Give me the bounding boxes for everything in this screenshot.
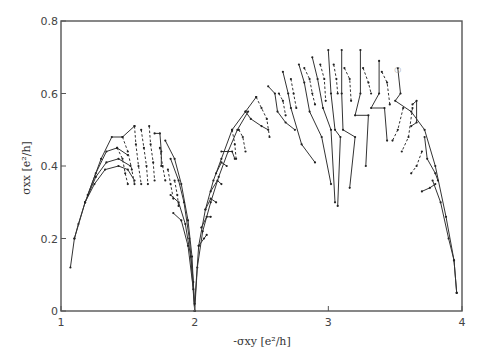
- data-point: [391, 140, 393, 142]
- data-point: [311, 56, 313, 58]
- y-axis: 00.20.40.60.8: [41, 15, 67, 318]
- data-point: [401, 150, 403, 152]
- data-point: [220, 161, 222, 163]
- data-point: [323, 78, 325, 80]
- data-point: [100, 158, 102, 160]
- data-point: [424, 129, 426, 131]
- data-point: [148, 125, 150, 127]
- data-point: [167, 169, 169, 171]
- data-point: [337, 92, 339, 94]
- data-point: [426, 158, 428, 160]
- data-point: [69, 266, 71, 268]
- data-point: [339, 136, 341, 138]
- data-point: [105, 161, 107, 163]
- x-tick-label: 1: [58, 316, 65, 329]
- data-point: [268, 136, 270, 138]
- data-point: [333, 63, 335, 65]
- data-point: [160, 150, 162, 152]
- series-right-flow-12: [279, 94, 286, 116]
- data-point: [440, 201, 442, 203]
- data-point: [266, 118, 268, 120]
- data-point: [334, 201, 336, 203]
- data-point: [170, 183, 172, 185]
- data-point: [290, 78, 292, 80]
- series-left-right-arc-a: [165, 141, 194, 311]
- data-point: [117, 158, 119, 160]
- data-point: [143, 147, 145, 149]
- data-point: [285, 121, 287, 123]
- data-point: [127, 169, 129, 171]
- data-point: [314, 103, 316, 105]
- data-point: [322, 107, 324, 109]
- series-right-flow-16: [304, 68, 315, 104]
- data-point: [370, 107, 372, 109]
- data-point: [147, 183, 149, 185]
- data-point: [192, 288, 194, 290]
- series-right-flow-32: [411, 152, 422, 174]
- data-point: [260, 107, 262, 109]
- data-point: [206, 234, 208, 236]
- data-point: [397, 129, 399, 131]
- data-point: [234, 143, 236, 145]
- data-point: [330, 183, 332, 185]
- data-point: [285, 114, 287, 116]
- x-axis-label: -σxy [e²/h]: [233, 335, 290, 348]
- data-point: [174, 158, 176, 160]
- data-point: [231, 150, 233, 152]
- data-point: [383, 107, 385, 109]
- data-point: [159, 147, 161, 149]
- data-point: [421, 150, 423, 152]
- series-right-flow-21: [342, 50, 355, 188]
- data-point: [386, 140, 388, 142]
- data-point: [226, 165, 228, 167]
- data-point: [133, 125, 135, 127]
- data-point: [124, 172, 126, 174]
- data-point: [170, 194, 172, 196]
- data-point: [218, 176, 220, 178]
- series-right-envelope-tail: [433, 181, 457, 293]
- data-point: [104, 169, 106, 171]
- data-point: [456, 292, 458, 294]
- data-point: [445, 216, 447, 218]
- series-right-flow-24: [363, 68, 371, 93]
- series-right-flow-27: [395, 68, 457, 293]
- data-point: [330, 92, 332, 94]
- data-point: [180, 183, 182, 185]
- data-point: [172, 198, 174, 200]
- data-point: [317, 78, 319, 80]
- data-point: [367, 114, 369, 116]
- data-point: [210, 201, 212, 203]
- series-right-flow-13: [283, 72, 315, 163]
- data-point: [294, 129, 296, 131]
- data-point: [174, 179, 176, 181]
- data-point: [172, 212, 174, 214]
- data-point: [337, 205, 339, 207]
- data-point: [244, 150, 246, 152]
- data-point: [349, 187, 351, 189]
- data-point: [244, 111, 246, 113]
- series-right-flow-8: [239, 130, 246, 152]
- data-point: [421, 190, 423, 192]
- data-point: [131, 169, 133, 171]
- data-point: [354, 136, 356, 138]
- series-right-flow-23: [355, 50, 368, 166]
- series-left-envelope-b: [74, 159, 130, 239]
- series-right-flow-10: [256, 97, 269, 137]
- data-point: [341, 92, 343, 94]
- data-point: [127, 183, 129, 185]
- x-axis: 1234: [58, 306, 466, 329]
- data-point: [210, 216, 212, 218]
- series-left-right-arc-b: [171, 159, 195, 311]
- x-tick-label: 2: [191, 316, 198, 329]
- data-point: [210, 198, 212, 200]
- data-point: [215, 201, 217, 203]
- data-point: [359, 49, 361, 51]
- series-left-flow-5: [149, 126, 154, 180]
- data-point: [321, 136, 323, 138]
- data-point: [303, 82, 305, 84]
- y-tick-label: 0.8: [41, 15, 59, 28]
- data-point: [267, 85, 269, 87]
- data-point: [121, 136, 123, 138]
- plot-frame: [61, 21, 462, 311]
- data-point: [121, 158, 123, 160]
